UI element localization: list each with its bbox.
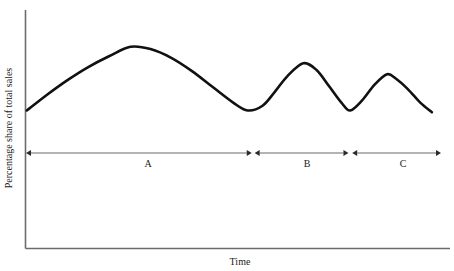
phase-label-a: A xyxy=(144,158,152,169)
phase-arrow-head-right-b xyxy=(343,150,348,156)
y-axis-title: Percentage share of total sales xyxy=(3,68,14,189)
chart-canvas: A B C Time Percentage share of total sal… xyxy=(0,0,454,271)
phase-arrow-head-left-c xyxy=(352,150,357,156)
phase-arrow-head-left-a xyxy=(26,150,31,156)
phase-arrow-head-right-c xyxy=(436,150,441,156)
phase-arrow-head-left-b xyxy=(255,150,260,156)
phase-segment-arrows xyxy=(26,150,441,156)
chart-figure: A B C Time Percentage share of total sal… xyxy=(0,0,454,271)
phase-arrow-head-right-a xyxy=(247,150,252,156)
phase-label-b: B xyxy=(304,158,311,169)
x-axis-title: Time xyxy=(230,256,251,267)
phase-label-c: C xyxy=(400,158,407,169)
data-curve-percentage-share xyxy=(27,46,432,112)
